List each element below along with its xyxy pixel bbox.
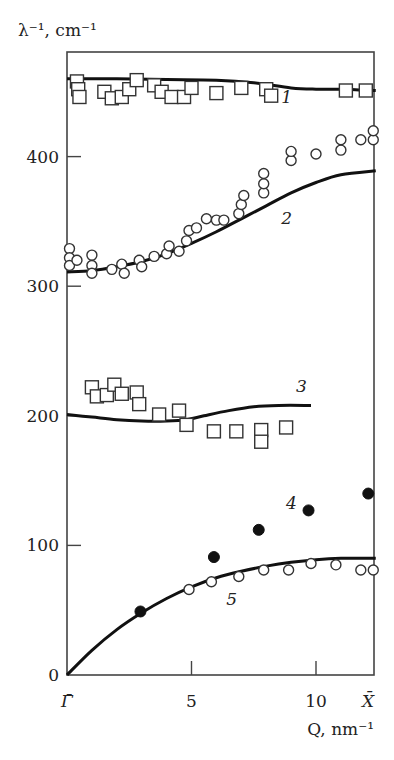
series-2-point xyxy=(259,168,269,178)
series-2-point xyxy=(368,126,378,136)
curve-label-4: 4 xyxy=(285,493,297,513)
y-axis-title: λ⁻¹, cm⁻¹ xyxy=(18,20,97,40)
series-4-point xyxy=(363,488,374,499)
series-2-point xyxy=(107,264,117,274)
series-5-point xyxy=(184,584,194,594)
series-5-point xyxy=(306,559,316,569)
series-5-point xyxy=(234,572,244,582)
series-5-point xyxy=(368,565,378,575)
series-2-point xyxy=(356,135,366,145)
x-tick-label: 5 xyxy=(186,691,197,711)
series-2-point xyxy=(219,215,229,225)
series-3-point xyxy=(115,387,128,400)
plot-border xyxy=(67,52,374,675)
series-2-point xyxy=(137,262,147,272)
y-tick-label: 200 xyxy=(27,406,59,426)
series-3-point xyxy=(153,408,166,421)
curve-label-1: 1 xyxy=(281,87,292,107)
series-2-point xyxy=(259,179,269,189)
series-3-point xyxy=(255,435,268,448)
y-axis-label: λ⁻¹, cm⁻¹ xyxy=(18,20,97,40)
series-1-point xyxy=(359,84,372,97)
series-2-point xyxy=(87,250,97,260)
series-3-point xyxy=(173,404,186,417)
series-5-point xyxy=(259,565,269,575)
series-1-point xyxy=(339,84,352,97)
series-2-point xyxy=(336,145,346,155)
x-tick-label: Γ̄ xyxy=(60,691,74,711)
series-4-point xyxy=(253,524,264,535)
series-1-point xyxy=(73,90,86,103)
series-5-point xyxy=(284,565,294,575)
x-tick-label: 10 xyxy=(305,691,327,711)
series-2-point xyxy=(174,246,184,256)
series-2-point xyxy=(164,241,174,251)
y-tick-label: 400 xyxy=(27,147,59,167)
series-3-point xyxy=(230,425,243,438)
y-tick-label: 300 xyxy=(27,276,59,296)
series-1-point xyxy=(235,81,248,94)
curve-label-2: 2 xyxy=(280,208,292,228)
series-2-point xyxy=(149,251,159,261)
series-2-point xyxy=(336,135,346,145)
x-axis-label: Q, nm⁻¹ xyxy=(307,719,374,739)
series-4-point xyxy=(303,505,314,516)
chart: λ⁻¹, cm⁻¹ 0100200300400Γ̄510X̄ 12345 Q, … xyxy=(0,0,394,760)
curve-5 xyxy=(67,558,376,675)
series-1-point xyxy=(210,87,223,100)
data-points xyxy=(64,74,378,617)
x-axis-title: Q, nm⁻¹ xyxy=(307,719,374,739)
curve-label-3: 3 xyxy=(296,376,307,396)
series-2-point xyxy=(191,223,201,233)
series-5-point xyxy=(206,577,216,587)
series-1-point xyxy=(265,89,278,102)
series-3-point xyxy=(207,425,220,438)
series-1-point xyxy=(130,74,143,87)
series-3-point xyxy=(180,418,193,431)
series-4-point xyxy=(208,552,219,563)
series-1-point xyxy=(185,81,198,94)
series-5-point xyxy=(331,560,341,570)
series-2-point xyxy=(311,149,321,159)
series-2-point xyxy=(239,190,249,200)
series-4-point xyxy=(135,606,146,617)
series-3-point xyxy=(133,398,146,411)
series-3-point xyxy=(280,421,293,434)
theory-curves xyxy=(67,79,376,675)
plot-frame xyxy=(67,52,374,675)
y-tick-label: 100 xyxy=(27,535,59,555)
curve-labels: 12345 xyxy=(226,87,307,609)
x-tick-label: X̄ xyxy=(360,690,375,711)
curve-label-5: 5 xyxy=(226,589,237,609)
series-2-point xyxy=(72,255,82,265)
series-2-point xyxy=(87,268,97,278)
series-5-point xyxy=(356,565,366,575)
series-2-point xyxy=(119,268,129,278)
series-2-point xyxy=(182,236,192,246)
series-2-point xyxy=(201,214,211,224)
series-1-point xyxy=(165,90,178,103)
series-2-point xyxy=(286,146,296,156)
y-tick-label: 0 xyxy=(48,665,59,685)
